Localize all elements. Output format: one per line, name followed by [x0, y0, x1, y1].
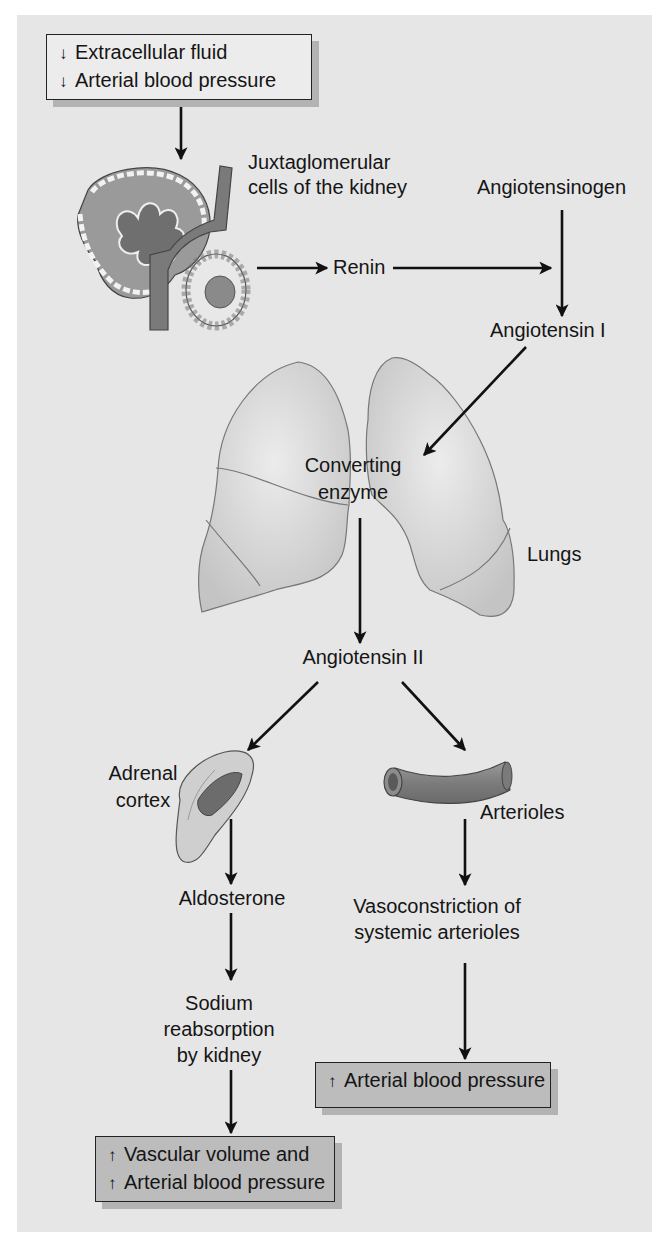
renin-label: Renin — [333, 255, 385, 280]
down-arrow-icon: ↓ — [59, 69, 75, 95]
angiotensinogen-label: Angiotensinogen — [477, 175, 626, 200]
adrenal-cortex-label: Adrenal cortex — [109, 760, 178, 814]
kidney-illustration — [78, 166, 246, 330]
angiotensin-2-label: Angiotensin II — [302, 645, 423, 670]
arteriole-illustration — [384, 762, 512, 803]
arrow-angiotensin-2-to-arterioles — [402, 682, 465, 750]
vasoconstriction-label: Vasoconstriction of systemic arterioles — [353, 893, 521, 945]
arrow-angiotensin-2-to-adrenal — [248, 682, 318, 750]
vascular-volume-outcome-box: ↑Vascular volume and ↑Arterial blood pre… — [95, 1136, 335, 1202]
outcome-line: ↑Vascular volume and — [108, 1141, 324, 1169]
stimulus-line: ↓Arterial blood pressure — [59, 67, 301, 95]
lungs-label: Lungs — [527, 542, 582, 567]
up-arrow-icon: ↑ — [108, 1171, 124, 1197]
outcome-line: ↑Arterial blood pressure — [328, 1067, 540, 1095]
stimulus-box: ↓Extracellular fluid ↓Arterial blood pre… — [46, 34, 312, 100]
arterioles-label: Arterioles — [480, 800, 564, 825]
jg-cells-label: Juxtaglomerular cells of the kidney — [248, 150, 407, 200]
outcome-line: ↑Arterial blood pressure — [108, 1169, 324, 1197]
converting-enzyme-label: Converting enzyme — [305, 452, 402, 506]
angiotensin-1-label: Angiotensin I — [490, 318, 606, 343]
sodium-reabsorption-label: Sodium reabsorption by kidney — [163, 990, 274, 1068]
arterial-pressure-outcome-box: ↑Arterial blood pressure — [315, 1062, 551, 1108]
down-arrow-icon: ↓ — [59, 41, 75, 67]
up-arrow-icon: ↑ — [108, 1143, 124, 1169]
adrenal-gland-illustration — [176, 751, 253, 862]
aldosterone-label: Aldosterone — [179, 886, 286, 911]
up-arrow-icon: ↑ — [328, 1069, 344, 1095]
stimulus-line: ↓Extracellular fluid — [59, 39, 301, 67]
